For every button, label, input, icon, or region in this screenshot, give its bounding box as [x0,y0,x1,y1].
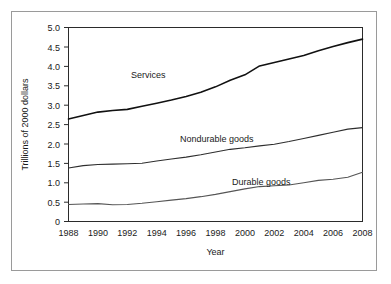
y-tick-label: 1.0 [47,178,60,188]
x-tick-label: 1990 [88,228,108,238]
x-tick-label: 1996 [176,228,196,238]
x-tick-label: 1988 [58,228,78,238]
x-tick-label: 2006 [323,228,343,238]
series-label-nondurable: Nondurable goods [180,134,254,144]
series-line-durable [69,172,363,205]
x-tick-label: 1992 [117,228,137,238]
y-axis-title: Trillions of 2000 dollars [20,78,30,171]
series-label-durable: Durable goods [232,177,291,187]
x-tick-label: 1998 [205,228,225,238]
x-axis-title: Year [206,247,224,257]
y-tick-label: 0.5 [47,198,60,208]
y-tick-label: 2.5 [47,120,60,130]
series-line-services [69,39,363,119]
x-axis-tick-labels: 1988 1990 1992 1994 1996 1998 2000 2002 … [58,228,372,238]
y-tick-label: 5.0 [47,23,60,33]
chart-figure: 5.0 4.5 4.0 3.5 3.0 2.5 2.0 1.5 1.0 0.5 … [0,0,391,284]
line-chart: 5.0 4.5 4.0 3.5 3.0 2.5 2.0 1.5 1.0 0.5 … [0,0,391,284]
y-tick-label: 1.5 [47,159,60,169]
x-tick-label: 1994 [147,228,167,238]
y-tick-label: 4.0 [47,62,60,72]
y-tick-label: 2.0 [47,140,60,150]
x-tick-label: 2000 [235,228,255,238]
y-tick-label: 0 [55,217,60,227]
x-tick-label: 2004 [294,228,314,238]
y-tick-label: 4.5 [47,43,60,53]
y-tick-label: 3.0 [47,101,60,111]
y-axis-tick-labels: 5.0 4.5 4.0 3.5 3.0 2.5 2.0 1.5 1.0 0.5 … [47,23,60,227]
x-tick-label: 2008 [352,228,372,238]
x-tick-label: 2002 [264,228,284,238]
series-label-services: Services [131,70,166,80]
y-tick-label: 3.5 [47,81,60,91]
plot-area-border [69,28,363,222]
y-axis-ticks [64,28,69,222]
